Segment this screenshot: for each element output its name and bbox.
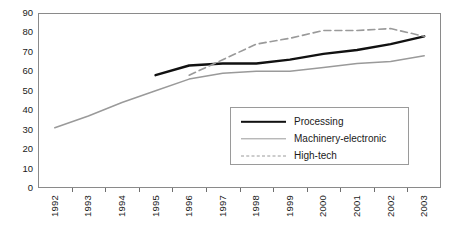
x-axis-tick-mark	[172, 188, 173, 192]
y-axis-tick-label: 30	[22, 125, 33, 135]
legend-swatch-processing	[241, 117, 286, 127]
series-line-high-tech	[189, 29, 424, 76]
legend-label-high-tech: High-tech	[294, 151, 337, 161]
y-axis-tick-label: 60	[22, 67, 33, 77]
x-axis-tick-mark	[139, 188, 140, 192]
legend-label-processing: Processing	[294, 117, 343, 127]
y-axis-tick-label: 50	[22, 86, 33, 96]
legend-swatch-machinery-electronic	[241, 134, 286, 144]
y-axis-tick-label: 10	[22, 164, 33, 174]
x-axis-tick-mark	[72, 188, 73, 192]
x-axis-tick-label: 1996	[184, 195, 194, 217]
x-axis-tick-label: 1997	[218, 195, 228, 217]
x-axis-tick-mark	[340, 188, 341, 192]
y-axis-tick-label: 90	[22, 8, 33, 18]
y-axis-tick-label: 40	[22, 105, 33, 115]
x-axis-tick-mark	[105, 188, 106, 192]
x-axis-tick-label: 1993	[84, 195, 94, 217]
legend-swatch-high-tech	[241, 151, 286, 161]
y-axis-tick-label: 20	[22, 144, 33, 154]
x-axis-tick-mark	[206, 188, 207, 192]
x-axis-tick-label: 2000	[319, 195, 329, 217]
y-axis: 0102030405060708090	[0, 0, 38, 189]
x-axis-tick-mark	[407, 188, 408, 192]
x-axis-tick-label: 2003	[419, 195, 429, 217]
x-axis-tick-mark	[240, 188, 241, 192]
y-axis-tick-label: 80	[22, 28, 33, 38]
line-chart: 0102030405060708090 19921993199419951996…	[0, 0, 455, 235]
y-axis-tick-label: 0	[28, 183, 33, 193]
x-axis-tick-label: 1994	[117, 195, 127, 217]
y-axis-tick-label: 70	[22, 47, 33, 57]
x-axis-tick-mark	[307, 188, 308, 192]
x-axis-tick-label: 1995	[151, 195, 161, 217]
x-axis-tick-mark	[273, 188, 274, 192]
legend-item-high-tech: High-tech	[231, 147, 408, 164]
legend-label-machinery-electronic: Machinery-electronic	[294, 134, 386, 144]
series-line-processing	[156, 36, 425, 75]
x-axis-tick-label: 2002	[386, 195, 396, 217]
legend-item-machinery-electronic: Machinery-electronic	[231, 130, 408, 147]
x-axis-tick-mark	[374, 188, 375, 192]
x-axis-tick-label: 2001	[352, 195, 362, 217]
chart-legend: Processing Machinery-electronic High-tec…	[230, 107, 409, 165]
x-axis-tick-label: 1999	[285, 195, 295, 217]
x-axis-tick-label: 1992	[50, 195, 60, 217]
legend-item-processing: Processing	[231, 113, 408, 130]
x-axis-tick-label: 1998	[252, 195, 262, 217]
x-axis: 1992199319941995199619971998199920002001…	[38, 188, 441, 235]
